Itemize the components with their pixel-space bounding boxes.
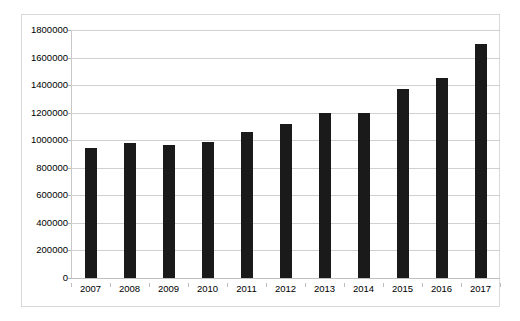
y-axis-tick-label: 600000 (10, 190, 68, 200)
x-axis-tick-label: 2009 (149, 283, 189, 295)
y-axis-tick-label: 0 (10, 273, 68, 283)
plot-area (71, 30, 500, 278)
y-axis-tick-label: 1800000 (10, 25, 68, 35)
bar (241, 132, 253, 278)
x-axis-tick-label: 2010 (188, 283, 228, 295)
y-axis-tick-label: 1600000 (10, 53, 68, 63)
y-axis-tick-label: 200000 (10, 245, 68, 255)
x-axis-tick-label: 2014 (344, 283, 384, 295)
y-axis-labels: 0200000400000600000800000100000012000001… (10, 30, 68, 278)
y-axis-tick-label: 1000000 (10, 135, 68, 145)
x-axis-tick-label: 2008 (110, 283, 150, 295)
gridline (71, 278, 500, 279)
gridline (71, 30, 500, 31)
x-axis-labels: 2007200820092010201120122013201420152016… (71, 283, 500, 299)
x-axis-tick-mark (500, 283, 501, 287)
bar (202, 142, 214, 278)
bar (124, 143, 136, 278)
x-axis-tick-label: 2016 (422, 283, 462, 295)
bar (319, 113, 331, 278)
x-axis-tick-label: 2007 (71, 283, 111, 295)
bar (280, 124, 292, 278)
plot-wrapper: 0200000400000600000800000100000012000001… (22, 15, 499, 306)
bar (475, 44, 487, 278)
bar (163, 145, 175, 278)
bar (397, 89, 409, 278)
bar-chart-figure: 0200000400000600000800000100000012000001… (21, 14, 500, 307)
y-axis-tick-label: 1200000 (10, 108, 68, 118)
bar (85, 148, 97, 278)
gridline (71, 58, 500, 59)
x-axis-tick-label: 2012 (266, 283, 306, 295)
x-axis-tick-label: 2011 (227, 283, 267, 295)
bar (436, 78, 448, 278)
y-axis-tick-label: 400000 (10, 218, 68, 228)
y-axis-tick-label: 1400000 (10, 80, 68, 90)
x-axis-tick-label: 2015 (383, 283, 423, 295)
y-axis-tick-label: 800000 (10, 163, 68, 173)
x-axis-tick-label: 2017 (461, 283, 501, 295)
x-axis-tick-label: 2013 (305, 283, 345, 295)
bar (358, 113, 370, 278)
